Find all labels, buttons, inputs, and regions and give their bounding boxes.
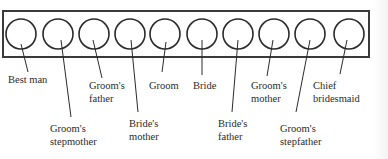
seat-circle-chief-bridesmaid: [334, 19, 364, 49]
seat-label-grooms-mother: Groom'smother: [251, 79, 287, 105]
top-table-frame: [3, 11, 369, 57]
seat-label-line: father: [218, 130, 247, 143]
seat-label-grooms-stepfather: Groom'sstepfather: [280, 122, 321, 148]
seat-label-line: Groom's: [251, 79, 287, 92]
seat-label-line: bridesmaid: [313, 92, 360, 105]
seat-circle-grooms-mother: [259, 19, 289, 49]
seat-label-line: Bride's: [218, 117, 247, 130]
leader-line-grooms-father: [93, 40, 102, 78]
seat-label-line: Groom's: [89, 79, 125, 92]
seat-label-line: Best man: [8, 73, 47, 86]
seat-label-brides-father: Bride'sfather: [218, 117, 247, 143]
seat-circle-grooms-stepfather: [295, 19, 325, 49]
seat-label-line: Chief: [313, 79, 360, 92]
seat-label-line: father: [89, 92, 125, 105]
seat-circle-brides-mother: [115, 19, 145, 49]
seat-circle-groom: [150, 19, 180, 49]
seating-diagram: Best manGroom'sstepmotherGroom'sfatherBr…: [0, 0, 388, 159]
seat-label-grooms-stepmother: Groom'sstepmother: [50, 122, 97, 148]
seat-label-line: Groom's: [50, 122, 97, 135]
seat-label-grooms-father: Groom'sfather: [89, 79, 125, 105]
leader-line-grooms-stepfather: [296, 40, 310, 112]
seat-label-line: stepfather: [280, 135, 321, 148]
seat-label-line: Groom's: [280, 122, 321, 135]
seat-label-line: Bride: [193, 79, 216, 92]
seat-label-best-man: Best man: [8, 73, 47, 86]
seat-label-line: mother: [129, 130, 159, 143]
leader-line-brides-mother: [131, 40, 138, 112]
seat-label-bride: Bride: [193, 79, 216, 92]
seat-label-groom: Groom: [149, 79, 179, 92]
seats: [6, 19, 364, 117]
leader-line-brides-father: [232, 40, 238, 112]
leader-line-grooms-stepmother: [61, 40, 71, 117]
seat-label-brides-mother: Bride'smother: [129, 117, 159, 143]
seat-circle-grooms-stepmother: [43, 19, 73, 49]
seat-label-line: Bride's: [129, 117, 159, 130]
seat-label-line: stepmother: [50, 135, 97, 148]
seat-label-chief-bridesmaid: Chiefbridesmaid: [313, 79, 360, 105]
seat-label-line: mother: [251, 92, 287, 105]
seat-label-line: Groom: [149, 79, 179, 92]
